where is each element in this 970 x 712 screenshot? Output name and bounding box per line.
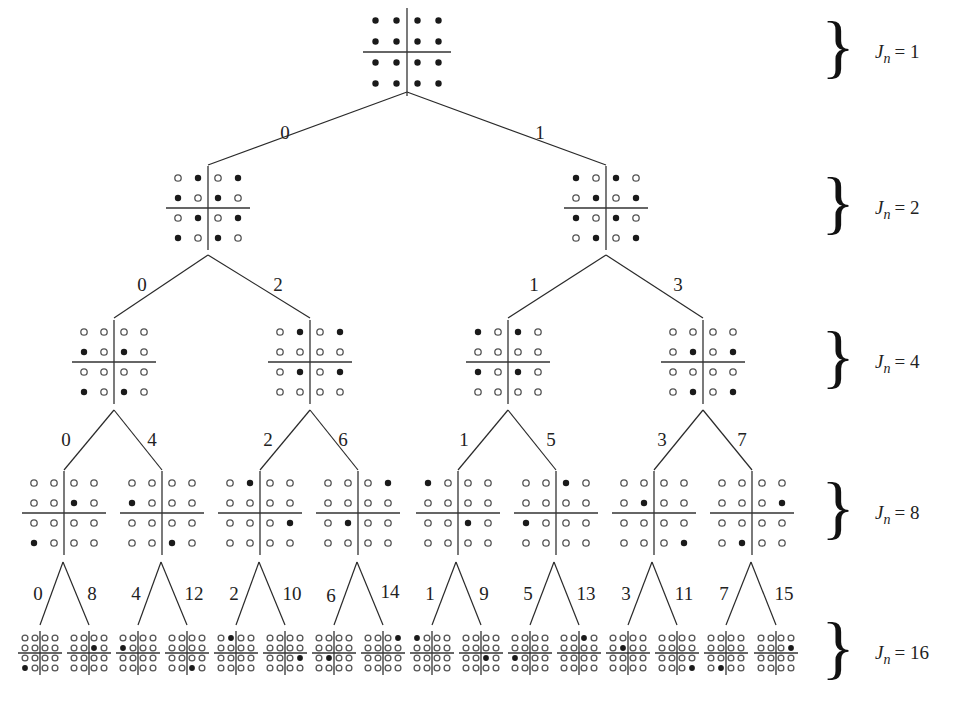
- open-sample-dot: [463, 645, 469, 651]
- open-sample-dot: [317, 369, 323, 375]
- open-sample-dot: [121, 369, 127, 375]
- open-sample-dot: [189, 520, 195, 526]
- filled-sample-dot: [739, 540, 745, 546]
- level-label-group: }Jn= 16: [821, 609, 929, 686]
- filled-sample-dot: [247, 480, 253, 486]
- open-sample-dot: [591, 655, 597, 661]
- edge-label: 9: [479, 583, 489, 604]
- filled-sample-dot: [81, 389, 87, 395]
- open-sample-dot: [543, 520, 549, 526]
- edge-label: 12: [185, 583, 204, 604]
- open-sample-dot: [730, 369, 736, 375]
- open-sample-dot: [169, 500, 175, 506]
- open-sample-dot: [227, 540, 233, 546]
- open-sample-dot: [297, 389, 303, 395]
- open-sample-dot: [149, 500, 155, 506]
- open-sample-dot: [561, 645, 567, 651]
- open-sample-dot: [641, 480, 647, 486]
- open-sample-dot: [719, 540, 725, 546]
- open-sample-dot: [22, 655, 28, 661]
- open-sample-dot: [583, 520, 589, 526]
- open-sample-dot: [287, 665, 293, 671]
- open-sample-dot: [325, 520, 331, 526]
- tree-edge: [236, 562, 259, 625]
- open-sample-dot: [788, 635, 794, 641]
- open-sample-dot: [424, 645, 430, 651]
- open-sample-dot: [630, 665, 636, 671]
- open-sample-dot: [483, 645, 489, 651]
- open-sample-dot: [563, 500, 569, 506]
- edge-label: 6: [338, 429, 348, 450]
- open-sample-dot: [542, 635, 548, 641]
- open-sample-dot: [277, 389, 283, 395]
- open-sample-dot: [385, 500, 391, 506]
- open-sample-dot: [535, 329, 541, 335]
- open-sample-dot: [708, 645, 714, 651]
- open-sample-dot: [141, 349, 147, 355]
- lattice-node: [22, 471, 106, 555]
- open-sample-dot: [385, 520, 391, 526]
- open-sample-dot: [434, 665, 440, 671]
- open-sample-dot: [475, 349, 481, 355]
- edge-label: 0: [137, 274, 147, 295]
- open-sample-dot: [81, 369, 87, 375]
- filled-sample-dot: [195, 215, 201, 221]
- open-sample-dot: [424, 635, 430, 641]
- edge-label: 1: [425, 583, 435, 604]
- lattice-node: [661, 320, 745, 404]
- open-sample-dot: [414, 665, 420, 671]
- open-sample-dot: [267, 500, 273, 506]
- open-sample-dot: [535, 389, 541, 395]
- lattice-node: [116, 631, 160, 675]
- open-sample-dot: [120, 665, 126, 671]
- filled-sample-dot: [730, 389, 736, 395]
- open-sample-dot: [571, 655, 577, 661]
- filled-sample-dot: [581, 635, 587, 641]
- filled-sample-dot: [121, 389, 127, 395]
- open-sample-dot: [199, 635, 205, 641]
- open-sample-dot: [659, 665, 665, 671]
- open-sample-dot: [71, 645, 77, 651]
- open-sample-dot: [277, 645, 283, 651]
- open-sample-dot: [630, 655, 636, 661]
- open-sample-dot: [708, 665, 714, 671]
- open-sample-dot: [228, 645, 234, 651]
- open-sample-dot: [788, 655, 794, 661]
- open-sample-dot: [708, 655, 714, 661]
- open-sample-dot: [522, 645, 528, 651]
- open-sample-dot: [778, 665, 784, 671]
- lattice-node: [361, 631, 405, 675]
- open-sample-dot: [730, 329, 736, 335]
- open-sample-dot: [365, 520, 371, 526]
- tree-edge: [751, 562, 776, 625]
- open-sample-dot: [345, 540, 351, 546]
- open-sample-dot: [542, 655, 548, 661]
- open-sample-dot: [336, 645, 342, 651]
- open-sample-dot: [610, 655, 616, 661]
- open-sample-dot: [150, 645, 156, 651]
- open-sample-dot: [523, 540, 529, 546]
- open-sample-dot: [728, 645, 734, 651]
- tree-edge: [554, 562, 579, 625]
- tree-edge: [456, 562, 481, 625]
- open-sample-dot: [425, 520, 431, 526]
- open-sample-dot: [150, 635, 156, 641]
- open-sample-dot: [277, 349, 283, 355]
- open-sample-dot: [52, 665, 58, 671]
- filled-sample-dot: [620, 645, 626, 651]
- open-sample-dot: [169, 635, 175, 641]
- open-sample-dot: [522, 665, 528, 671]
- open-sample-dot: [140, 665, 146, 671]
- open-sample-dot: [640, 635, 646, 641]
- open-sample-dot: [227, 480, 233, 486]
- open-sample-dot: [71, 480, 77, 486]
- open-sample-dot: [42, 665, 48, 671]
- open-sample-dot: [71, 655, 77, 661]
- filled-sample-dot: [372, 17, 378, 23]
- open-sample-dot: [561, 635, 567, 641]
- filled-sample-dot: [730, 349, 736, 355]
- open-sample-dot: [267, 635, 273, 641]
- edge-label: 4: [131, 583, 141, 604]
- open-sample-dot: [385, 540, 391, 546]
- filled-sample-dot: [337, 329, 343, 335]
